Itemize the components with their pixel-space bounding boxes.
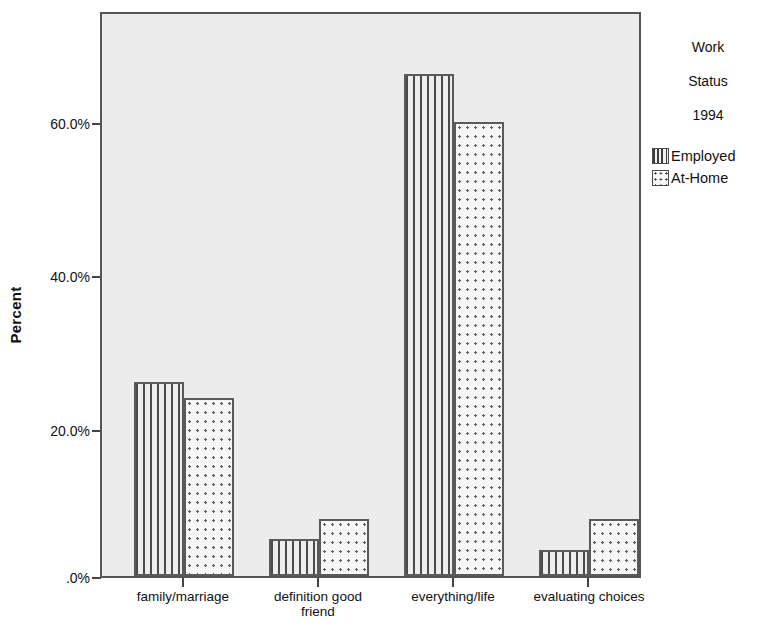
x-tick-mark-definition-good-friend xyxy=(317,578,319,587)
x-tick-mark-everything-life xyxy=(452,578,454,587)
y-tick-label-40: 40.0% xyxy=(32,269,90,285)
x-tick-label-line2: friend xyxy=(248,604,388,619)
y-tick-label-20: 20.0% xyxy=(32,423,90,439)
x-tick-label-everything-life: everything/life xyxy=(383,589,523,604)
dotted-swatch-icon xyxy=(652,170,669,186)
plot-inner xyxy=(102,14,639,576)
y-axis-title: Percent xyxy=(8,255,23,375)
legend: Work Status 1994 Employed At-Home xyxy=(652,22,770,186)
x-tick-label-line1: family/marriage xyxy=(113,589,253,604)
plot-area xyxy=(100,12,641,578)
bar-athome-family-marriage xyxy=(184,398,234,576)
legend-title: Work Status 1994 xyxy=(646,22,770,142)
bar-athome-everything-life xyxy=(454,122,504,576)
y-tick-label-60: 60.0% xyxy=(32,116,90,132)
legend-title-line3: 1994 xyxy=(646,107,770,124)
bar-employed-evaluating-choices xyxy=(539,550,589,576)
x-tick-mark-family-marriage xyxy=(182,578,184,587)
legend-label-athome: At-Home xyxy=(671,170,728,186)
bar-employed-family-marriage xyxy=(134,382,184,576)
x-tick-mark-evaluating-choices xyxy=(587,578,589,587)
legend-label-employed: Employed xyxy=(671,148,735,164)
vertical-stripes-swatch-icon xyxy=(652,148,669,164)
bar-athome-definition-good-friend xyxy=(319,519,369,576)
x-tick-label-line1: everything/life xyxy=(383,589,523,604)
x-tick-label-line1: definition good xyxy=(248,589,388,604)
legend-item-athome: At-Home xyxy=(652,170,770,186)
legend-item-employed: Employed xyxy=(652,148,770,164)
x-tick-label-family-marriage: family/marriage xyxy=(113,589,253,604)
x-tick-label-evaluating-choices: evaluating choices xyxy=(516,589,662,604)
bar-employed-definition-good-friend xyxy=(269,539,319,576)
bar-employed-everything-life xyxy=(404,74,454,576)
y-tick-label-0: .0% xyxy=(32,570,90,586)
legend-title-line1: Work xyxy=(646,39,770,56)
x-tick-label-definition-good-friend: definition good friend xyxy=(248,589,388,619)
bar-chart-figure: Percent 60.0% 40.0% 20.0% .0% family/ xyxy=(0,0,770,641)
bar-athome-evaluating-choices xyxy=(589,519,639,576)
legend-title-line2: Status xyxy=(646,73,770,90)
x-tick-label-line1: evaluating choices xyxy=(516,589,662,604)
